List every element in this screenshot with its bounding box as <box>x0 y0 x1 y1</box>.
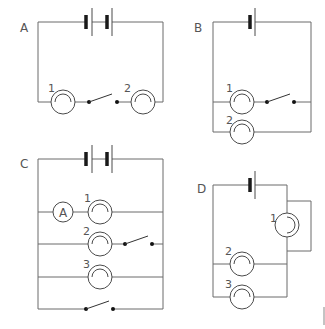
svg-text:3: 3 <box>225 278 232 291</box>
circuit-a: A 1 2 <box>20 8 163 114</box>
switch-icon <box>123 236 154 246</box>
lamp-icon <box>88 232 112 256</box>
svg-text:2: 2 <box>225 245 232 258</box>
switch-icon <box>84 301 115 311</box>
svg-text:2: 2 <box>226 114 233 127</box>
lamp-icon <box>88 200 112 224</box>
ammeter-icon: A <box>53 202 73 222</box>
svg-text:2: 2 <box>83 225 90 238</box>
svg-text:2: 2 <box>124 82 131 95</box>
lamp-icon <box>275 213 299 237</box>
svg-text:1: 1 <box>84 192 91 205</box>
lamp-icon <box>131 90 155 114</box>
svg-text:1: 1 <box>226 82 233 95</box>
lamp-icon <box>88 265 112 289</box>
circuit-diagrams: A 1 2 <box>0 0 325 329</box>
battery-icon <box>250 8 255 36</box>
lamp-icon <box>230 90 254 114</box>
circuit-c-label: C <box>20 157 28 171</box>
switch-icon <box>265 94 296 104</box>
svg-text:1: 1 <box>270 212 277 225</box>
circuit-a-label: A <box>20 21 29 35</box>
svg-text:3: 3 <box>83 258 90 271</box>
circuit-d: D 1 2 3 <box>197 171 311 309</box>
svg-text:1: 1 <box>48 82 55 95</box>
lamp-icon <box>230 120 254 144</box>
battery-icon <box>250 171 255 199</box>
svg-text:A: A <box>59 206 68 220</box>
circuit-b-label: B <box>194 21 202 35</box>
switch-icon <box>87 94 119 104</box>
circuit-d-label: D <box>197 182 206 196</box>
lamp-icon <box>230 285 254 309</box>
circuit-b: B 1 2 <box>194 8 311 144</box>
lamp-icon <box>230 252 254 276</box>
circuit-c: C A 1 2 <box>20 145 163 311</box>
